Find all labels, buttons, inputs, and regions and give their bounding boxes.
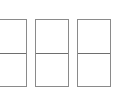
panel-3-top-cell[interactable] [78, 20, 110, 54]
panel-3[interactable] [77, 19, 111, 87]
panel-3-bottom-cell[interactable] [78, 53, 110, 88]
panel-1-bottom-cell[interactable] [0, 53, 26, 88]
panel-1[interactable] [0, 19, 27, 87]
panel-2-bottom-cell[interactable] [36, 53, 68, 88]
panel-1-top-cell[interactable] [0, 20, 26, 54]
panel-2[interactable] [35, 19, 69, 87]
panel-2-top-cell[interactable] [36, 20, 68, 54]
